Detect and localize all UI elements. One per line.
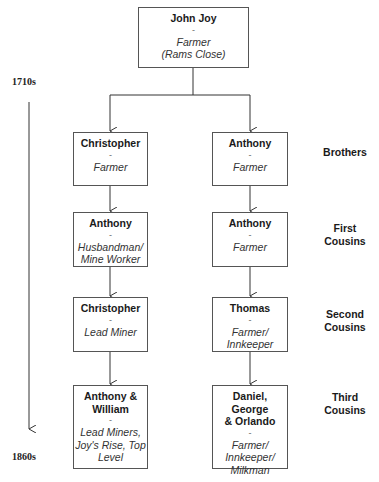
separator: -	[74, 315, 147, 326]
gen3-left-box: Christopher - Lead Miner	[73, 297, 148, 352]
person-name: John Joy	[139, 12, 248, 25]
person-name: Christopher	[74, 137, 147, 150]
root-person-box: John Joy - Farmer (Rams Close)	[138, 7, 249, 68]
gen2-left-box: Anthony - Husbandman/ Mine Worker	[73, 212, 148, 267]
gen1-left-box: Christopher - Farmer	[73, 132, 148, 186]
gen1-right-box: Anthony - Farmer	[212, 132, 288, 186]
person-occupation: Lead Miners, Joy's Rise, Top Level	[74, 426, 147, 464]
separator: -	[74, 150, 147, 161]
separator: -	[213, 150, 287, 161]
gen4-right-box: Daniel, George & Orlando - Farmer/ Innke…	[212, 385, 288, 469]
person-name: Anthony & William	[74, 390, 147, 415]
person-occupation: Lead Miner	[74, 326, 147, 339]
person-name: Daniel, George & Orlando	[213, 390, 287, 428]
relation-label-brothers: Brothers	[310, 146, 379, 159]
relation-label-first-cousins: First Cousins	[310, 222, 379, 248]
person-occupation: Farmer	[213, 161, 287, 174]
gen2-right-box: Anthony - Farmer	[212, 212, 288, 267]
person-occupation: Farmer	[213, 241, 287, 254]
relation-label-second-cousins: Second Cousins	[310, 308, 379, 334]
separator: -	[213, 315, 287, 326]
timeline-start-label: 1710s	[12, 76, 36, 87]
separator: -	[213, 428, 287, 439]
person-name: Anthony	[74, 217, 147, 230]
relation-label-third-cousins: Third Cousins	[310, 391, 379, 417]
person-name: Thomas	[213, 302, 287, 315]
person-name: Anthony	[213, 137, 287, 150]
person-occupation: Farmer/ Innkeeper	[213, 326, 287, 351]
gen3-right-box: Thomas - Farmer/ Innkeeper	[212, 297, 288, 352]
person-occupation: Farmer/ Innkeeper/ Milkman	[213, 439, 287, 477]
person-occupation: Farmer	[74, 161, 147, 174]
separator: -	[74, 230, 147, 241]
separator: -	[139, 25, 248, 36]
person-occupation: Farmer (Rams Close)	[139, 36, 248, 61]
separator: -	[213, 230, 287, 241]
person-name: Christopher	[74, 302, 147, 315]
separator: -	[74, 415, 147, 426]
gen4-left-box: Anthony & William - Lead Miners, Joy's R…	[73, 385, 148, 469]
person-name: Anthony	[213, 217, 287, 230]
timeline-end-label: 1860s	[12, 451, 36, 462]
person-occupation: Husbandman/ Mine Worker	[74, 241, 147, 266]
